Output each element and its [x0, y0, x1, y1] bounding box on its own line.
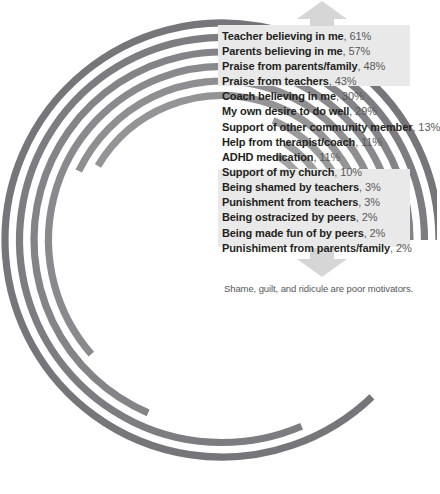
chart-label-row: Praise from parents/family, 48%	[222, 59, 385, 74]
value-label: 3%	[364, 196, 380, 208]
category-label: Parents believing in me	[222, 45, 343, 57]
category-label: Teacher believing in me	[222, 30, 344, 42]
category-label: ADHD medication	[222, 151, 313, 163]
category-label: Support of my church	[222, 166, 334, 178]
category-label: Being ostracized by peers	[222, 211, 356, 223]
value-label: 11%	[319, 151, 340, 163]
chart-label-row: Teacher believing in me, 61%	[222, 29, 371, 44]
chart-label-row: Support of my church, 10%	[222, 165, 362, 180]
value-label: 11%	[361, 136, 382, 148]
chart-label-row: My own desire to do well, 29%	[222, 104, 377, 119]
category-label: Praise from teachers	[222, 75, 329, 87]
chart-label-row: Being made fun of by peers, 2%	[222, 226, 385, 241]
category-label: Punishiment from parents/family	[222, 242, 390, 254]
value-label: 43%	[335, 75, 357, 87]
value-label: 13%	[418, 121, 440, 133]
value-label: 2%	[362, 211, 378, 223]
chart-label-row: Parents believing in me, 57%	[222, 44, 370, 59]
value-label: 30%	[342, 90, 364, 102]
chart-label-row: Praise from teachers, 43%	[222, 74, 356, 89]
category-label: Being made fun of by peers	[222, 227, 364, 239]
category-label: My own desire to do well	[222, 105, 349, 117]
chart-label-row: Help from therapist/coach, 11%	[222, 135, 382, 150]
chart-label-row: Punishiment from parents/family, 2%	[222, 241, 412, 256]
chart-label-row: Being shamed by teachers, 3%	[222, 180, 381, 195]
category-label: Coach believing in me	[222, 90, 336, 102]
chart-caption: Shame, guilt, and ridicule are poor moti…	[224, 283, 413, 294]
chart-label-row: Punishment from teachers, 3%	[222, 195, 380, 210]
chart-label-row: Being ostracized by peers, 2%	[222, 210, 377, 225]
category-label: Praise from parents/family	[222, 60, 358, 72]
value-label: 2%	[396, 242, 412, 254]
value-label: 61%	[350, 30, 372, 42]
value-label: 2%	[370, 227, 386, 239]
value-label: 48%	[364, 60, 386, 72]
chart-label-row: ADHD medication, 11%	[222, 150, 340, 165]
category-label: Help from therapist/coach	[222, 136, 355, 148]
value-label: 3%	[365, 181, 381, 193]
chart-label-row: Support of other community member, 13%	[222, 120, 440, 135]
value-label: 57%	[349, 45, 371, 57]
chart-label-row: Coach believing in me, 30%	[222, 89, 364, 104]
value-label: 29%	[355, 105, 377, 117]
category-label: Support of other community member	[222, 121, 412, 133]
category-label: Punishment from teachers	[222, 196, 358, 208]
category-label: Being shamed by teachers	[222, 181, 359, 193]
value-label: 10%	[340, 166, 362, 178]
